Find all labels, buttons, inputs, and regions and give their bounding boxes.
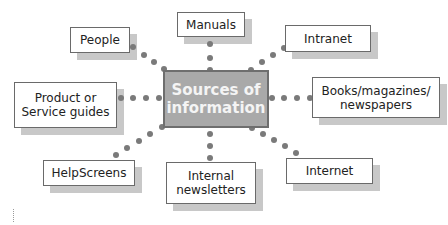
- node-label: HelpScreens: [52, 166, 127, 180]
- node-label: Internet: [306, 164, 354, 178]
- connector-dot: [118, 95, 124, 101]
- connector-dot: [271, 137, 277, 143]
- connector-dot: [270, 52, 276, 58]
- node-product-service-guides: Product or Service guides: [14, 82, 117, 128]
- node-manuals: Manuals: [177, 12, 245, 37]
- connector-dot: [130, 44, 136, 50]
- connector-dot: [282, 143, 288, 149]
- node-label: Product or Service guides: [22, 91, 110, 119]
- connector-dot: [136, 138, 142, 144]
- node-internal-newsletters: Internal newsletters: [166, 162, 256, 204]
- connector-dot: [113, 152, 119, 158]
- connector-dot: [207, 143, 213, 149]
- connector-dot: [130, 95, 136, 101]
- center-node-sources-of-information: Sources of information: [163, 70, 269, 128]
- node-intranet: Intranet: [285, 25, 371, 52]
- connector-dot: [151, 59, 157, 65]
- connector-dot: [259, 59, 265, 65]
- connector-dot: [147, 131, 153, 137]
- connector-dot: [260, 131, 266, 137]
- connector-dot: [269, 95, 275, 101]
- node-label: People: [80, 33, 120, 47]
- node-label: Internal newsletters: [176, 169, 246, 197]
- node-helpscreens: HelpScreens: [43, 160, 135, 186]
- connector-dot: [207, 131, 213, 137]
- center-node-label: Sources of information: [166, 81, 265, 117]
- node-label: Manuals: [186, 18, 236, 32]
- connector-dot: [207, 55, 213, 61]
- connector-dot: [124, 145, 130, 151]
- connector-dot: [156, 95, 162, 101]
- node-books-magazines-newspapers: Books/magazines/ newspapers: [312, 77, 440, 118]
- dotted-marker: [13, 209, 15, 222]
- connector-dot: [294, 95, 300, 101]
- node-label: Intranet: [304, 32, 352, 46]
- node-label: Books/magazines/ newspapers: [321, 84, 430, 112]
- connector-dot: [143, 95, 149, 101]
- connector-dot: [141, 52, 147, 58]
- connector-dot: [207, 41, 213, 47]
- connector-dot: [293, 150, 299, 156]
- node-internet: Internet: [286, 158, 373, 184]
- node-people: People: [70, 27, 130, 53]
- connector-dot: [207, 155, 213, 161]
- connector-dot: [281, 95, 287, 101]
